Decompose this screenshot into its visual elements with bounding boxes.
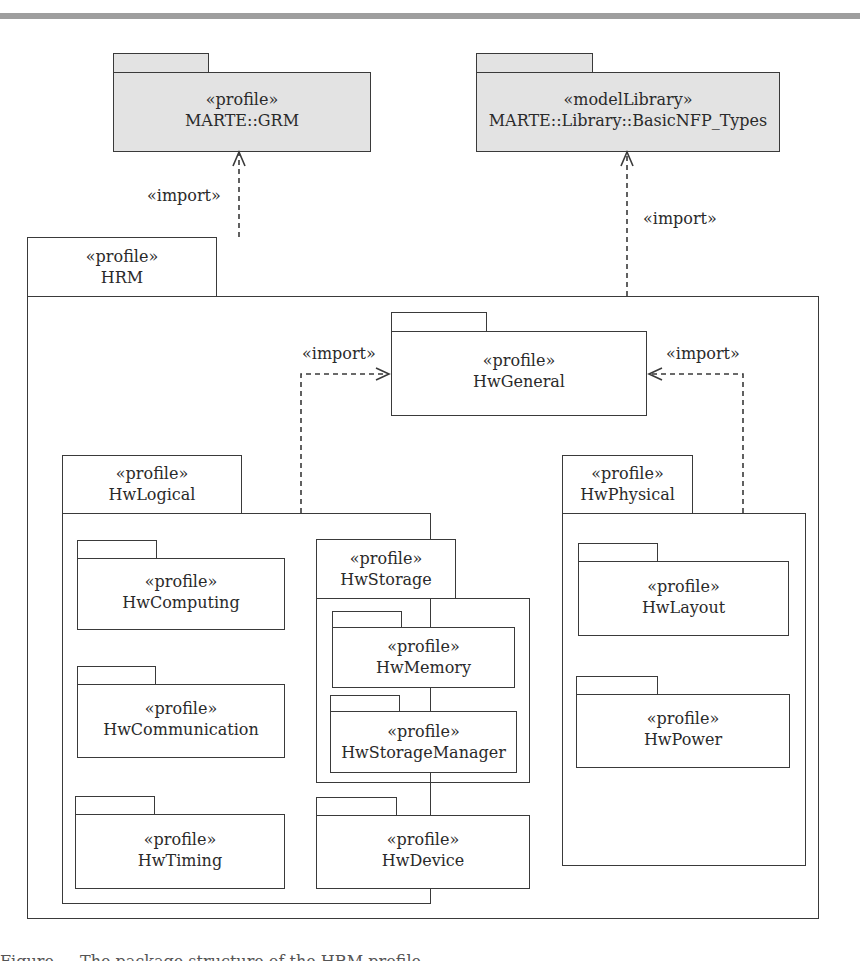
package-hwstorage-stereotype: «profile» <box>317 548 455 569</box>
package-hwdevice-stereotype: «profile» <box>317 829 529 850</box>
package-hwstoragemanager-name: HwStorageManager <box>331 742 516 763</box>
package-grm-name: MARTE::GRM <box>114 110 370 131</box>
package-hwgeneral-name: HwGeneral <box>392 371 646 392</box>
package-hwcommunication-stereotype: «profile» <box>78 698 284 719</box>
package-hwstoragemanager-stereotype: «profile» <box>331 721 516 742</box>
package-hwgeneral[interactable]: «profile» HwGeneral <box>391 331 647 416</box>
package-hwlogical-stereotype: «profile» <box>63 463 241 484</box>
import-hrm-nfp-arrowhead-icon <box>621 152 633 166</box>
package-hwphysical-stereotype: «profile» <box>563 463 692 484</box>
package-nfp-name: MARTE::Library::BasicNFP_Types <box>477 110 779 131</box>
package-hwpower-name: HwPower <box>577 729 789 750</box>
package-hwcomputing[interactable]: «profile» HwComputing <box>77 558 285 630</box>
package-hwtiming-tab <box>75 796 155 815</box>
import-label-grm: «import» <box>147 186 221 206</box>
package-hwstoragemanager-tab <box>330 695 400 712</box>
import-label-hwphysical: «import» <box>666 344 740 364</box>
package-hwpower-tab <box>576 676 658 695</box>
package-hwmemory-name: HwMemory <box>333 657 514 678</box>
package-hrm-name: HRM <box>28 267 216 288</box>
figure-caption: Figure — The package structure of the HR… <box>0 952 500 961</box>
package-hwpower-stereotype: «profile» <box>577 708 789 729</box>
package-hwtiming[interactable]: «profile» HwTiming <box>75 814 285 889</box>
package-hwmemory-tab <box>332 611 402 628</box>
package-grm[interactable]: «profile» MARTE::GRM <box>113 72 371 152</box>
package-hwcommunication-tab <box>77 666 156 685</box>
package-hwlayout-name: HwLayout <box>579 597 788 618</box>
package-hwlayout-tab <box>578 543 658 562</box>
package-grm-stereotype: «profile» <box>114 89 370 110</box>
package-hwgeneral-stereotype: «profile» <box>392 350 646 371</box>
package-hwcomputing-tab <box>77 540 157 559</box>
package-nfp-stereotype: «modelLibrary» <box>477 89 779 110</box>
package-hwdevice[interactable]: «profile» HwDevice <box>316 815 530 889</box>
package-hwphysical-tab[interactable]: «profile» HwPhysical <box>562 455 693 514</box>
page-top-rule <box>0 13 860 19</box>
package-nfp[interactable]: «modelLibrary» MARTE::Library::BasicNFP_… <box>476 72 780 152</box>
package-hwlogical-tab[interactable]: «profile» HwLogical <box>62 455 242 514</box>
package-hwpower[interactable]: «profile» HwPower <box>576 694 790 768</box>
package-hwcommunication-name: HwCommunication <box>78 719 284 740</box>
package-hwmemory[interactable]: «profile» HwMemory <box>332 627 515 688</box>
package-hwphysical-name: HwPhysical <box>563 484 692 505</box>
package-hrm-stereotype: «profile» <box>28 246 216 267</box>
package-hwlayout-stereotype: «profile» <box>579 576 788 597</box>
package-hwtiming-name: HwTiming <box>76 850 284 871</box>
package-hwstoragemanager[interactable]: «profile» HwStorageManager <box>330 711 517 773</box>
package-hwstorage-name: HwStorage <box>317 569 455 590</box>
package-hwtiming-stereotype: «profile» <box>76 829 284 850</box>
package-hwdevice-name: HwDevice <box>317 850 529 871</box>
package-hwmemory-stereotype: «profile» <box>333 636 514 657</box>
package-hwcommunication[interactable]: «profile» HwCommunication <box>77 684 285 758</box>
package-hrm-tab[interactable]: «profile» HRM <box>27 237 217 297</box>
package-hwlayout[interactable]: «profile» HwLayout <box>578 561 789 636</box>
package-hwcomputing-name: HwComputing <box>78 592 284 613</box>
package-hwstorage-tab[interactable]: «profile» HwStorage <box>316 539 456 599</box>
package-hwgeneral-tab <box>391 312 487 332</box>
import-hrm-grm-arrowhead-icon <box>233 152 245 166</box>
package-grm-tab <box>113 53 209 73</box>
import-label-nfp: «import» <box>643 209 717 229</box>
package-nfp-tab <box>476 53 593 73</box>
package-hwcomputing-stereotype: «profile» <box>78 571 284 592</box>
package-hwlogical-name: HwLogical <box>63 484 241 505</box>
import-label-hwlogical: «import» <box>302 344 376 364</box>
package-hwdevice-tab <box>316 797 397 816</box>
